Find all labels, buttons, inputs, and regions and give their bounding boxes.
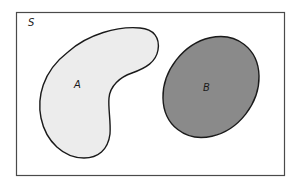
set-b-label: B <box>203 82 210 93</box>
universe-label-s: S <box>28 17 35 28</box>
set-a-label: A <box>73 79 81 90</box>
venn-diagram: S A B <box>0 0 295 186</box>
